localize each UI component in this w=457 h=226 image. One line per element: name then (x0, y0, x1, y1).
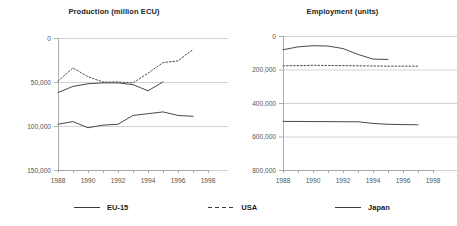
x-tick-label: 1994 (366, 177, 381, 184)
plot-area-employment: 0200,000400,000600,000800,00019881990199… (228, 0, 457, 190)
y-tick-label: 0 (272, 33, 276, 40)
x-tick-label: 1998 (201, 177, 216, 184)
series-line-usa (283, 65, 418, 66)
legend-item-usa: USA (208, 203, 257, 212)
x-tick-label: 1998 (426, 177, 441, 184)
chart-page: Production (million ECU) 050,000100,0001… (0, 0, 457, 226)
series-line-usa (58, 49, 193, 82)
legend-swatch-usa (208, 204, 234, 211)
legend-swatch-eu15 (74, 204, 100, 211)
x-tick-label: 1996 (171, 177, 186, 184)
series-line-japan (58, 112, 193, 128)
x-tick-label: 1992 (336, 177, 351, 184)
plot-area-production: 050,000100,000150,0001988199019921994199… (0, 0, 228, 190)
x-tick-label: 1996 (396, 177, 411, 184)
chart-panel-production: Production (million ECU) 050,000100,0001… (0, 0, 228, 190)
series-line-japan (283, 121, 418, 124)
x-tick-label: 1992 (111, 177, 126, 184)
y-tick-label: 600,000 (252, 133, 276, 140)
employment-line-chart: 0200,000400,000600,000800,00019881990199… (228, 0, 457, 190)
legend-item-eu15: EU-15 (74, 203, 128, 212)
legend-label-usa: USA (241, 203, 257, 212)
y-tick-label: 150,000 (27, 167, 51, 174)
production-line-chart: 050,000100,000150,0001988199019921994199… (0, 0, 228, 190)
x-tick-label: 1988 (51, 177, 66, 184)
y-tick-label: 0 (47, 35, 51, 42)
chart-legend: EU-15 USA Japan (0, 196, 457, 218)
x-tick-label: 1990 (81, 177, 96, 184)
legend-label-eu15: EU-15 (107, 203, 128, 212)
y-tick-label: 400,000 (252, 100, 276, 107)
y-tick-label: 50,000 (31, 79, 52, 86)
y-tick-label: 800,000 (252, 167, 276, 174)
y-tick-label: 100,000 (27, 123, 51, 130)
legend-label-japan: Japan (368, 203, 390, 212)
x-tick-label: 1990 (306, 177, 321, 184)
series-line-eu-15 (58, 82, 163, 93)
chart-panel-employment: Employment (units) 0200,000400,000600,00… (228, 0, 457, 190)
series-line-eu-15 (283, 46, 388, 60)
legend-item-japan: Japan (335, 203, 390, 212)
x-tick-label: 1988 (276, 177, 291, 184)
x-tick-label: 1994 (141, 177, 156, 184)
y-tick-label: 200,000 (252, 66, 276, 73)
legend-swatch-japan (335, 204, 361, 211)
